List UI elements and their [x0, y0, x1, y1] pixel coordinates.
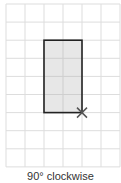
grid — [0, 0, 121, 168]
caption: 90° clockwise — [0, 168, 121, 183]
rotation-diagram: 90° clockwise — [0, 0, 121, 183]
